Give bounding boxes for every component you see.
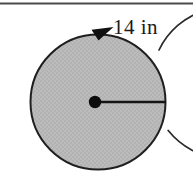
measurement-label: 14 in: [113, 15, 158, 39]
figure-canvas: [0, 0, 193, 192]
center-point: [89, 96, 101, 108]
circumference-arc: [159, 7, 193, 159]
circle-figure: 14 in: [0, 0, 193, 192]
